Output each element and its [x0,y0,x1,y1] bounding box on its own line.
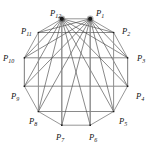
vertex-label-p6: P6 [88,132,97,143]
vertex-p9 [24,85,26,87]
vertex-label-p1: P1 [95,8,104,19]
polygon-edge-p7-p8 [38,112,61,126]
vertex-label-p7: P7 [55,132,65,143]
vertex-label-p10: P10 [2,53,14,64]
vertex-p10 [24,57,26,59]
vertex-label-p3: P3 [136,53,145,64]
polygon-edge-p8-p9 [24,86,38,111]
vertex-p3 [127,57,129,59]
vertex-p4 [127,85,129,87]
vertex-p7 [61,124,63,126]
vertex-p5 [113,111,115,113]
polygon-chord-diagram: P1P2P3P4P5P6P7P8P9P10P11P12 [0,0,153,150]
polygon-edge-p5-p6 [90,112,113,126]
geometry-figure: P1P2P3P4P5P6P7P8P9P10P11P12 [0,0,153,150]
vertex-label-p5: P5 [118,116,127,127]
chord-layer [24,19,127,125]
polygon-edge-p4-p5 [114,86,128,111]
vertex-p11 [38,32,40,34]
vertex-label-p11: P11 [20,26,32,37]
vertex-label-p9: P9 [10,91,19,102]
vertex-p2 [113,32,115,34]
vertex-p1 [88,17,92,21]
chord-p12-p9 [24,19,61,86]
vertex-p8 [38,111,40,113]
vertex-label-p12: P12 [49,8,61,19]
vertex-p6 [89,124,91,126]
vertex-label-p2: P2 [121,26,130,37]
vertex-label-p8: P8 [28,116,37,127]
vertex-label-p4: P4 [135,91,144,102]
